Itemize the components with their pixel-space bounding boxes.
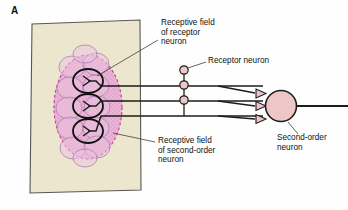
synapse-1 [256,89,266,98]
label-receptor-neuron: Receptor neuron [208,56,269,66]
receptor-soma-3 [180,96,188,104]
leader-receptor-neuron [188,62,206,68]
synapse-2 [256,102,266,111]
axon-convergence [218,86,255,119]
second-order-soma [266,91,297,122]
label-receptive-field-receptor: Receptive field of receptor neuron [161,18,215,47]
label-second-order-neuron: Second-order neuron [277,133,327,152]
label-receptive-field-second-order: Receptive field of second-order neuron [158,136,215,165]
receptor-neuron-somas [180,66,188,116]
panel-letter: A [11,5,18,16]
receptor-soma-2 [180,81,188,89]
synaptic-terminals [256,89,266,124]
figure-canvas: A Receptive field of receptor neuron Rec… [0,0,348,210]
convergence-upper [218,86,255,93]
receptor-soma-1 [180,66,188,74]
